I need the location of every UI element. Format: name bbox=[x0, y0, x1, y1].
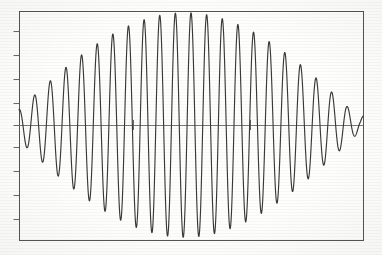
beat-waveform-plot bbox=[0, 0, 382, 255]
plot-background bbox=[0, 0, 382, 255]
figure-container bbox=[0, 0, 382, 255]
